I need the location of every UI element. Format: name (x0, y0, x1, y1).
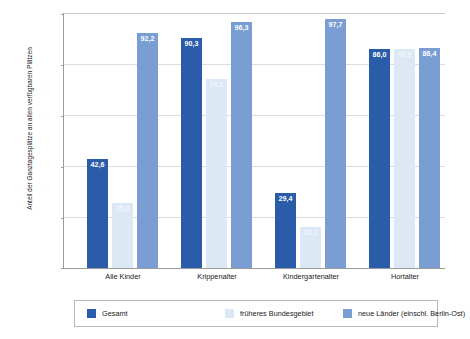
bar-value-label: 86,0 (373, 51, 387, 59)
bar-value-label: 16,1 (304, 229, 318, 237)
bar-group-krippenalter: 90,3 74,1 96,3 Krippenalter (181, 13, 252, 268)
bar-group-kindergartenalter: 29,4 16,1 97,7 Kindergartenalter (275, 13, 346, 268)
bar-value-label: 74,1 (210, 81, 224, 89)
ytick-mark-40 (61, 167, 64, 168)
bar-gesamt-krippenalter[interactable]: 90,3 (181, 38, 202, 268)
legend-label: früheres Bundesgebiet (240, 309, 313, 318)
bar-value-label: 90,3 (185, 40, 199, 48)
bar-group-alle-kinder: 42,6 25,4 92,2 Alle Kinder (87, 13, 158, 268)
ytick-mark-80 (61, 65, 64, 66)
legend-label: Gesamt (102, 309, 128, 318)
legend-item-gesamt[interactable]: Gesamt (87, 309, 128, 318)
bar-gesamt-alle-kinder[interactable]: 42,6 (87, 159, 108, 268)
bar-frueheres-bundesgebiet-kindergartenalter[interactable]: 16,1 (300, 227, 321, 268)
ytick-mark-20 (61, 218, 64, 219)
ytick-mark-0 (61, 268, 64, 269)
xtick-label-hortalter: Hortalter (335, 272, 470, 281)
legend-swatch-icon (225, 309, 234, 318)
bar-frueheres-bundesgebiet-hortalter[interactable]: 85,8 (394, 49, 415, 268)
bar-value-label: 85,8 (398, 51, 412, 59)
bar-gesamt-hortalter[interactable]: 86,0 (369, 49, 390, 268)
bar-value-label: 29,4 (279, 195, 293, 203)
legend-label: neue Länder (einschl. Berlin-Ost) (358, 309, 465, 318)
bar-value-label: 97,7 (329, 21, 343, 29)
ytick-mark-100 (61, 14, 64, 15)
bar-value-label: 96,3 (235, 24, 249, 32)
legend-item-frueheres-bundesgebiet[interactable]: früheres Bundesgebiet (225, 309, 313, 318)
plot-area: 100 80 60 40 20 0 42,6 25,4 (63, 13, 445, 269)
bar-neue-laender-krippenalter[interactable]: 96,3 (231, 22, 252, 268)
legend-swatch-icon (87, 309, 96, 318)
y-axis-title: Anteil der Ganztagesplätze an allen verf… (26, 4, 33, 254)
ytick-mark-60 (61, 116, 64, 117)
bar-value-label: 42,6 (91, 161, 105, 169)
legend-swatch-icon (343, 309, 352, 318)
bar-frueheres-bundesgebiet-alle-kinder[interactable]: 25,4 (112, 203, 133, 268)
bar-value-label: 86,4 (423, 50, 437, 58)
chart-legend: Gesamt früheres Bundesgebiet neue Länder… (74, 300, 438, 327)
bar-group-hortalter: 86,0 85,8 86,4 Hortalter (369, 13, 440, 268)
bar-value-label: 25,4 (116, 205, 130, 213)
bar-neue-laender-hortalter[interactable]: 86,4 (419, 48, 440, 268)
bar-gesamt-kindergartenalter[interactable]: 29,4 (275, 193, 296, 268)
legend-item-neue-laender[interactable]: neue Länder (einschl. Berlin-Ost) (343, 309, 465, 318)
bar-value-label: 92,2 (141, 35, 155, 43)
bar-neue-laender-alle-kinder[interactable]: 92,2 (137, 33, 158, 268)
bar-neue-laender-kindergartenalter[interactable]: 97,7 (325, 19, 346, 268)
bar-frueheres-bundesgebiet-krippenalter[interactable]: 74,1 (206, 79, 227, 268)
